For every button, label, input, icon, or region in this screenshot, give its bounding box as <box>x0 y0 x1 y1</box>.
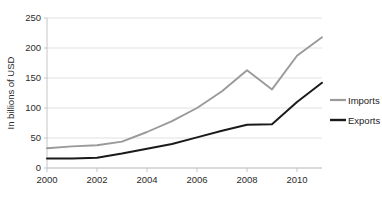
x-tick-label-2002: 2002 <box>86 174 107 185</box>
chart-background <box>0 0 382 201</box>
y-tick-label-0: 0 <box>36 162 41 173</box>
x-tick-label-2006: 2006 <box>186 174 207 185</box>
x-tick-label-2010: 2010 <box>286 174 307 185</box>
x-tick-label-2008: 2008 <box>236 174 257 185</box>
chart-page: 050100150200250 200020022004200620082010… <box>0 0 382 201</box>
legend-label-imports: Imports <box>348 95 380 106</box>
y-tick-label-200: 200 <box>25 42 41 53</box>
y-tick-label-100: 100 <box>25 102 41 113</box>
legend-label-exports: Exports <box>348 115 380 126</box>
y-tick-label-250: 250 <box>25 12 41 23</box>
y-tick-label-150: 150 <box>25 72 41 83</box>
line-chart: 050100150200250 200020022004200620082010… <box>0 0 382 201</box>
x-tick-label-2000: 2000 <box>36 174 57 185</box>
y-axis-title: In billions of USD <box>5 56 16 129</box>
y-tick-label-50: 50 <box>30 132 41 143</box>
x-tick-label-2004: 2004 <box>136 174 157 185</box>
